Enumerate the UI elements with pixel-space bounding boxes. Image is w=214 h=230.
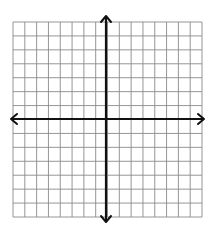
graph-paper <box>0 0 214 230</box>
